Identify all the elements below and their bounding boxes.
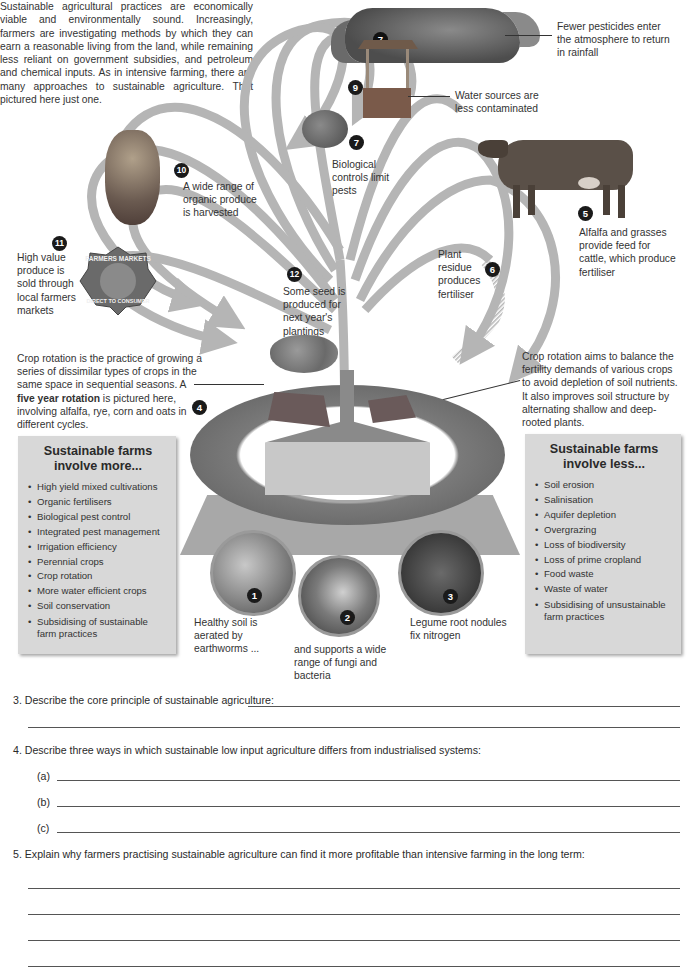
involve-more-box: Sustainable farms involve more... High y… [18, 436, 176, 654]
fungi-bacteria-photo [298, 555, 380, 637]
callout-badge-3: 3 [443, 589, 458, 604]
list-item: Organic fertilisers [28, 495, 168, 510]
callout-5-text: Alfalfa and grasses provide feed for cat… [579, 226, 679, 279]
earthworm-photo [210, 530, 296, 616]
question-4c-label: (c) [37, 822, 49, 834]
cow-image [478, 135, 638, 220]
question-3-answer-line-2[interactable] [28, 712, 680, 728]
question-5-label: 5. Explain why farmers practising sustai… [13, 848, 585, 860]
list-item: More water efficient crops [28, 584, 168, 599]
well-pointer-line [408, 96, 450, 97]
crop-rotation-right-text: Crop rotation aims to balance the fertil… [522, 350, 682, 429]
callout-9-text: Water sources are less contaminated [455, 89, 555, 115]
list-item: Subsidising of unsustainable farm practi… [535, 599, 673, 623]
callout-2-text: and supports a wide range of fungi and b… [294, 643, 414, 683]
callout-badge-5: 5 [578, 206, 593, 221]
list-item: Waste of water [535, 582, 673, 597]
crop-rotation-left-text: Crop rotation is the practice of growing… [17, 352, 202, 431]
question-4c-answer[interactable] [57, 817, 680, 833]
list-item: Loss of biodiversity [535, 538, 673, 553]
left-pointer-line [194, 384, 264, 385]
list-item: Soil erosion [535, 478, 673, 493]
water-well-image [358, 40, 418, 120]
list-item: Crop rotation [28, 569, 168, 584]
question-5-answer-line-3[interactable] [28, 925, 680, 941]
question-4a-label: (a) [37, 770, 50, 782]
question-4a-answer[interactable] [57, 765, 680, 781]
silo [340, 370, 354, 425]
list-item: Perennial crops [28, 555, 168, 570]
question-4b-answer[interactable] [57, 791, 680, 807]
root-nodules-photo [398, 530, 484, 616]
callout-8-text: Fewer pesticides enter the atmosphere to… [557, 20, 677, 60]
question-5-answer-line-2[interactable] [28, 899, 680, 915]
question-4b-label: (b) [37, 796, 50, 808]
list-item: Integrated pest management [28, 525, 168, 540]
callout-badge-12: 12 [287, 267, 302, 282]
callout-badge-9: 9 [348, 80, 363, 95]
callout-badge-4: 4 [192, 400, 207, 415]
callout-badge-10: 10 [174, 163, 189, 178]
question-3-answer-line-1[interactable] [248, 691, 680, 707]
farmers-market-logo: FARMERS MARKETS DIRECT TO CONSUMER [78, 245, 158, 315]
market-logo-top-text: FARMERS MARKETS [85, 255, 151, 262]
callout-badge-7: 7 [349, 135, 364, 150]
question-5-answer-line-1[interactable] [28, 873, 680, 889]
list-item: Salinisation [535, 493, 673, 508]
callout-12-text: Some seed is produced for next year's pl… [283, 285, 353, 338]
organic-produce-image [105, 130, 160, 225]
involve-more-title: Sustainable farms involve more... [28, 444, 168, 474]
list-item: Subsidising of sustainable farm practice… [28, 616, 168, 640]
list-item: Soil conservation [28, 599, 168, 614]
list-item: Irrigation efficiency [28, 540, 168, 555]
involve-less-box: Sustainable farms involve less... Soil e… [525, 434, 681, 654]
callout-7-text: Biological controls limit pests [332, 158, 397, 198]
callout-badge-6: 6 [485, 262, 500, 277]
callout-badge-11: 11 [52, 236, 67, 251]
callout-badge-2: 2 [340, 610, 355, 625]
callout-10-text: A wide range of organic produce is harve… [183, 180, 258, 220]
callout-1-text: Healthy soil is aerated by earthworms ..… [194, 616, 294, 656]
list-item: Biological pest control [28, 510, 168, 525]
hands-with-seed-image [270, 335, 338, 373]
list-item: Food waste [535, 567, 673, 582]
question-4-label: 4. Describe three ways in which sustaina… [13, 744, 481, 756]
market-logo-bottom-text: DIRECT TO CONSUMER [86, 298, 149, 304]
involve-less-list: Soil erosion Salinisation Aquifer deplet… [535, 478, 673, 623]
callout-3-text: Legume root nodules fix nitrogen [410, 616, 510, 642]
question-5-answer-line-4[interactable] [28, 951, 680, 967]
list-item: High yield mixed cultivations [28, 480, 168, 495]
question-3-label: 3. Describe the core principle of sustai… [13, 694, 274, 706]
callout-11-text: High value produce is sold through local… [17, 251, 77, 317]
involve-more-list: High yield mixed cultivations Organic fe… [28, 480, 168, 640]
list-item: Loss of prime cropland [535, 553, 673, 568]
callout-badge-1: 1 [247, 588, 262, 603]
ladybird-image [302, 110, 348, 148]
cloud-pointer-line [505, 35, 552, 36]
list-item: Overgrazing [535, 523, 673, 538]
callout-6-text: Plant residue produces fertiliser [438, 248, 488, 301]
list-item: Aquifer depletion [535, 508, 673, 523]
involve-less-title: Sustainable farms involve less... [535, 442, 673, 472]
